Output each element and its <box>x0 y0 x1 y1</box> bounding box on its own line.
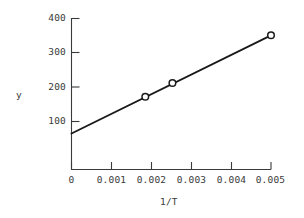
y-tick-label-400: 400 <box>34 13 66 23</box>
y-axis-ticks <box>72 19 80 122</box>
chart-figure: 400 300 200 100 0 0.001 0.002 0.003 0.00… <box>0 0 304 218</box>
y-tick-label-100: 100 <box>34 116 66 126</box>
x-tick-label-0.002: 0.002 <box>134 175 169 185</box>
data-point-1[interactable] <box>142 93 149 100</box>
x-tick-label-0.001: 0.001 <box>94 175 129 185</box>
x-tick-label-0.003: 0.003 <box>174 175 209 185</box>
x-tick-label-0.005: 0.005 <box>253 175 288 185</box>
y-axis-title: y <box>16 89 22 100</box>
y-tick-label-300: 300 <box>34 47 66 57</box>
plot-canvas <box>0 0 304 218</box>
x-tick-label-0.004: 0.004 <box>214 175 249 185</box>
x-tick-label-0: 0 <box>61 175 82 185</box>
data-point-3[interactable] <box>268 32 275 39</box>
x-axis-ticks <box>72 162 272 170</box>
data-point-2[interactable] <box>169 80 176 87</box>
y-tick-label-200: 200 <box>34 82 66 92</box>
x-axis-title: 1/T <box>160 196 178 207</box>
